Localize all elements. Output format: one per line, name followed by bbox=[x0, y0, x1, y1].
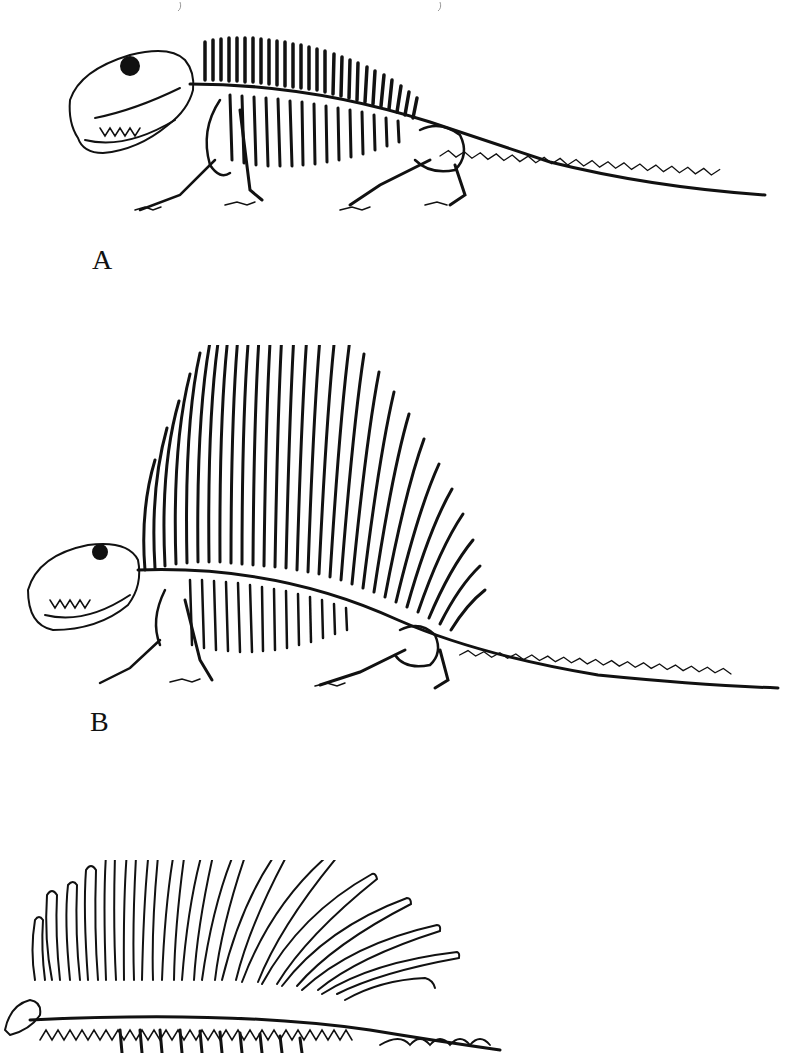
figure-label-b: B bbox=[90, 706, 109, 738]
cropped-caption-remnant bbox=[0, 0, 808, 12]
skeleton-b-illustration bbox=[0, 345, 808, 695]
skeleton-a-illustration bbox=[0, 20, 808, 220]
figure-label-a: A bbox=[92, 244, 112, 276]
figure-c-skeleton bbox=[0, 860, 808, 1053]
skeleton-c-illustration bbox=[0, 860, 808, 1053]
figure-a-skeleton bbox=[0, 20, 808, 220]
figure-b-skeleton bbox=[0, 345, 808, 695]
